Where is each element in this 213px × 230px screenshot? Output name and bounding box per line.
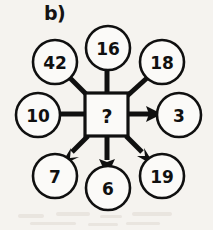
node-top-right-value: 18 (150, 53, 174, 73)
node-bottom-right: 19 (140, 154, 184, 198)
node-left: 10 (16, 93, 60, 137)
node-top: 16 (86, 26, 130, 70)
node-bottom: 6 (86, 166, 130, 210)
diagram-canvas: ? 42 16 18 10 3 7 6 (0, 0, 213, 230)
center-node-value: ? (101, 105, 112, 127)
node-bottom-value: 6 (102, 179, 114, 199)
node-bottom-left: 7 (33, 154, 77, 198)
node-top-right: 18 (140, 40, 184, 84)
node-bottom-left-value: 7 (49, 167, 61, 187)
node-top-value: 16 (96, 39, 120, 59)
node-bottom-right-value: 19 (150, 167, 174, 187)
center-node: ? (85, 93, 128, 136)
node-left-value: 10 (26, 106, 50, 126)
puzzle-figure: b) (0, 0, 213, 230)
node-right-value: 3 (173, 106, 185, 126)
node-top-left: 42 (33, 40, 77, 84)
scan-artifacts (18, 212, 172, 226)
node-right: 3 (157, 93, 201, 137)
node-top-left-value: 42 (43, 53, 67, 73)
